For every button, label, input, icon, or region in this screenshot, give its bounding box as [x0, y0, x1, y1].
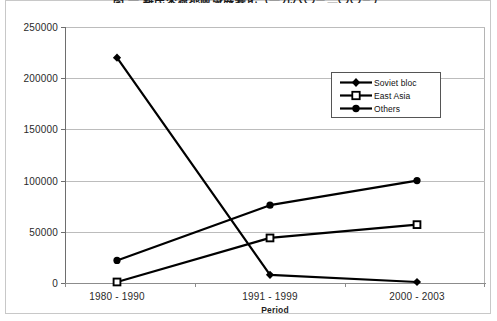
legend-marker-square-icon: [338, 90, 374, 101]
legend-label-others: Others: [374, 104, 400, 114]
series-line-others: [117, 181, 417, 261]
chart-legend: Soviet bloc East Asia Others: [331, 72, 441, 118]
ytick-label-0: 0: [52, 278, 58, 289]
ytick-label-50000: 50000: [29, 227, 58, 238]
legend-marker-circle-icon: [338, 103, 374, 114]
ytick-label-250000: 250000: [23, 22, 58, 33]
legend-item-soviet-bloc[interactable]: Soviet bloc: [332, 76, 440, 89]
data-point: [413, 177, 420, 184]
legend-label-soviet-bloc: Soviet bloc: [374, 78, 417, 88]
xtick-label-1980-1990: 1980 - 1990: [89, 291, 145, 302]
data-point: [267, 235, 274, 242]
data-point: [113, 257, 120, 264]
data-point: [413, 278, 421, 286]
legend-label-east-asia: East Asia: [374, 91, 410, 101]
chart-figure: 图 一 難民來源地區發展變化（一九八〇－二〇〇三） 250000 200000 …: [0, 0, 497, 321]
xtick-label-2000-2003: 2000 - 2003: [389, 291, 445, 302]
series-layer: [65, 27, 486, 285]
ytick-label-150000: 150000: [23, 124, 58, 135]
data-point: [266, 202, 273, 209]
x-axis-title: Period: [65, 305, 485, 315]
ytick-label-200000: 200000: [23, 73, 58, 84]
chart-title: 图 一 難民來源地區發展變化（一九八〇－二〇〇三）: [0, 0, 497, 3]
data-point: [114, 279, 121, 286]
legend-item-east-asia[interactable]: East Asia: [332, 89, 440, 102]
xtick-label-1991-1999: 1991 - 1999: [242, 291, 298, 302]
legend-item-others[interactable]: Others: [332, 102, 440, 115]
data-point: [414, 221, 421, 228]
ytick-label-100000: 100000: [23, 176, 58, 187]
series-line-east-asia: [117, 225, 417, 282]
legend-marker-diamond-icon: [338, 77, 374, 88]
